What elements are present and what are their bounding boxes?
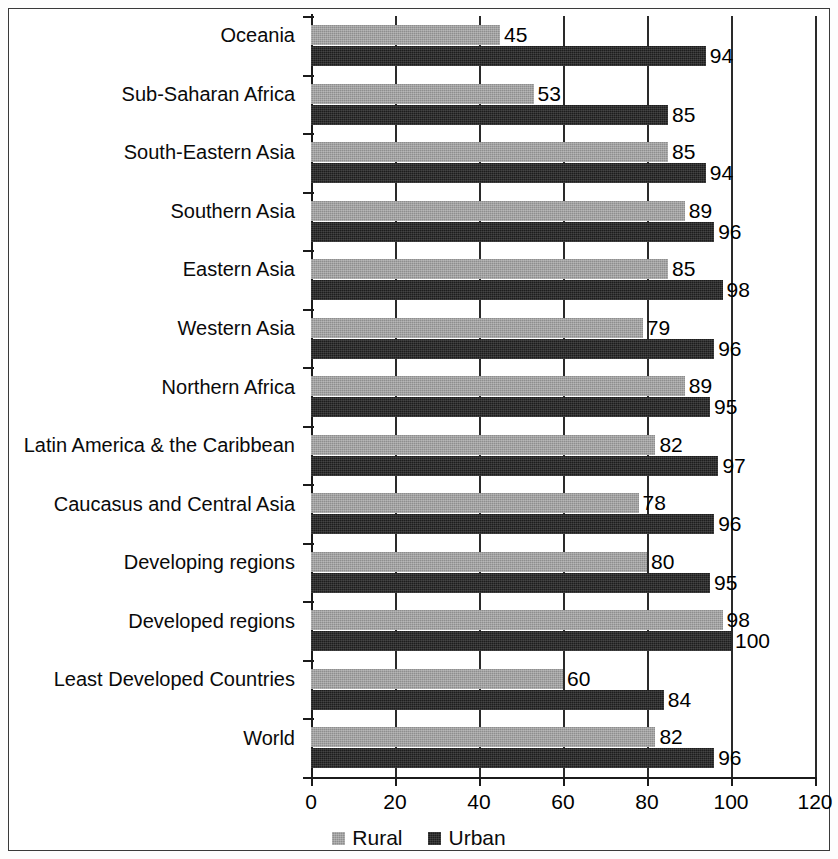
bar-value-label: 82: [655, 727, 682, 747]
bar-value-label: 79: [643, 318, 670, 338]
bar-urban: [311, 573, 710, 593]
x-tick-label-20: 20: [360, 790, 430, 814]
x-tick-100: [731, 777, 733, 786]
bar-value-label: 98: [723, 610, 750, 630]
category-label: Latin America & the Caribbean: [11, 434, 311, 457]
bar-value-label: 94: [706, 163, 733, 183]
bar-value-label: 82: [655, 435, 682, 455]
bar-urban: [311, 514, 714, 534]
bar-urban: [311, 339, 714, 359]
category-label-row: Developed regions: [0, 610, 311, 636]
legend-swatch-icon: [428, 832, 441, 845]
bar-rural: [311, 142, 668, 162]
bar-rural: [311, 376, 685, 396]
bar-urban: [311, 631, 731, 651]
gridline-120: [815, 16, 817, 777]
bar-value-label: 45: [500, 25, 527, 45]
bar-rural: [311, 493, 639, 513]
category-label: Eastern Asia: [11, 258, 311, 281]
bar-urban: [311, 46, 706, 66]
category-label-row: World: [0, 727, 311, 753]
bar-rural: [311, 318, 643, 338]
x-tick-60: [563, 777, 565, 786]
category-label: Developed regions: [11, 610, 311, 633]
bar-value-label: 97: [718, 456, 745, 476]
bar-value-label: 60: [563, 669, 590, 689]
bar-value-label: 95: [710, 397, 737, 417]
bar-rural: [311, 727, 655, 747]
bar-rural: [311, 435, 655, 455]
bar-urban: [311, 456, 718, 476]
x-tick-0: [311, 777, 313, 786]
bar-value-label: 84: [664, 690, 691, 710]
category-label: Sub-Saharan Africa: [11, 83, 311, 106]
bar-value-label: 85: [668, 105, 695, 125]
bar-urban: [311, 105, 668, 125]
bar-urban: [311, 280, 723, 300]
category-label: Oceania: [11, 24, 311, 47]
category-label-row: Southern Asia: [0, 200, 311, 226]
x-tick-20: [395, 777, 397, 786]
bar-rural: [311, 552, 647, 572]
x-tick-label-100: 100: [696, 790, 766, 814]
bar-value-label: 53: [534, 84, 561, 104]
category-label: South-Eastern Asia: [11, 141, 311, 164]
category-label: Caucasus and Central Asia: [11, 493, 311, 516]
bar-chart-figure: OceaniaSub-Saharan AfricaSouth-Eastern A…: [0, 0, 838, 859]
category-label-row: Developing regions: [0, 551, 311, 577]
legend-swatch-icon: [332, 832, 345, 845]
bar-rural: [311, 610, 723, 630]
bar-rural: [311, 25, 500, 45]
bar-value-label: 78: [639, 493, 666, 513]
bar-value-label: 98: [723, 280, 750, 300]
bar-value-label: 85: [668, 259, 695, 279]
plot-area: 4594538585948996859879968995829778968095…: [311, 16, 815, 777]
bar-urban: [311, 163, 706, 183]
category-label-row: Least Developed Countries: [0, 668, 311, 694]
bar-urban: [311, 690, 664, 710]
x-tick-80: [647, 777, 649, 786]
category-label-row: Northern Africa: [0, 376, 311, 402]
category-label-row: Sub-Saharan Africa: [0, 83, 311, 109]
category-label: World: [11, 727, 311, 750]
bar-rural: [311, 201, 685, 221]
bar-urban: [311, 748, 714, 768]
bar-urban: [311, 397, 710, 417]
legend-label: Urban: [448, 826, 505, 850]
category-label-row: Western Asia: [0, 317, 311, 343]
bar-rural: [311, 669, 563, 689]
category-label: Southern Asia: [11, 200, 311, 223]
bar-value-label: 89: [685, 201, 712, 221]
bar-value-label: 100: [731, 631, 770, 651]
bar-rural: [311, 84, 534, 104]
category-label: Northern Africa: [11, 376, 311, 399]
bar-value-label: 96: [714, 339, 741, 359]
bar-value-label: 95: [710, 573, 737, 593]
bar-value-label: 89: [685, 376, 712, 396]
category-label-row: Latin America & the Caribbean: [0, 434, 311, 460]
legend-label: Rural: [352, 826, 402, 850]
bar-urban: [311, 222, 714, 242]
x-tick-120: [815, 777, 817, 786]
x-tick-label-60: 60: [528, 790, 598, 814]
category-label: Western Asia: [11, 317, 311, 340]
legend-item-urban: Urban: [428, 826, 505, 850]
legend-item-rural: Rural: [332, 826, 402, 850]
category-label-row: Eastern Asia: [0, 258, 311, 284]
x-tick-label-0: 0: [276, 790, 346, 814]
bar-value-label: 96: [714, 222, 741, 242]
x-tick-label-120: 120: [780, 790, 838, 814]
category-label: Developing regions: [11, 551, 311, 574]
category-label-row: Caucasus and Central Asia: [0, 493, 311, 519]
category-label-row: Oceania: [0, 24, 311, 50]
category-label-row: South-Eastern Asia: [0, 141, 311, 167]
x-tick-label-80: 80: [612, 790, 682, 814]
bar-value-label: 94: [706, 46, 733, 66]
bar-value-label: 96: [714, 748, 741, 768]
x-tick-40: [479, 777, 481, 786]
bar-value-label: 85: [668, 142, 695, 162]
bar-value-label: 96: [714, 514, 741, 534]
category-label: Least Developed Countries: [11, 668, 311, 691]
bar-value-label: 80: [647, 552, 674, 572]
x-tick-label-40: 40: [444, 790, 514, 814]
